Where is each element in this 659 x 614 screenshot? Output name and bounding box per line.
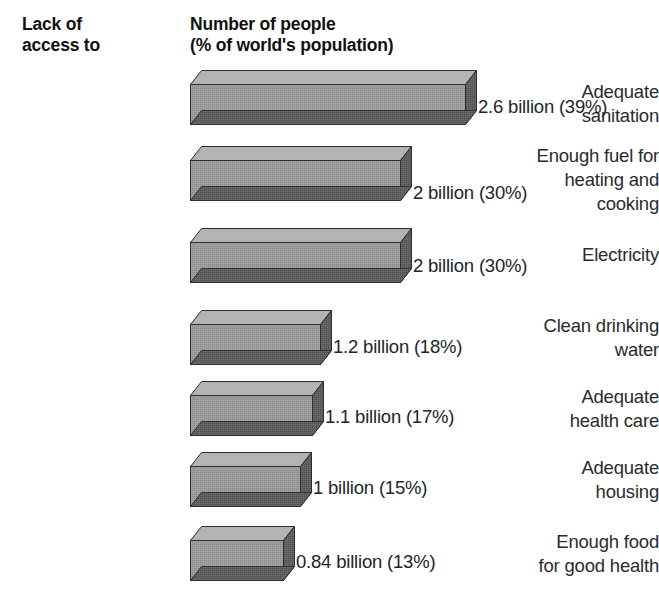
- bar-3d: [190, 228, 413, 284]
- value-axis-header: Number of people (% of world's populatio…: [190, 14, 393, 56]
- bar-value-label: 1.2 billion (18%): [333, 336, 462, 358]
- bar-chart: Lack of access to Number of people (% of…: [0, 0, 659, 614]
- bar-category-label: Clean drinking water: [484, 314, 659, 362]
- category-axis-header: Lack of access to: [22, 14, 100, 56]
- bar-3d: [190, 381, 325, 437]
- bar-category-label: Enough food for good health: [484, 530, 659, 578]
- bar-category-label: Adequate health care: [484, 385, 659, 433]
- bar-category-label: Enough fuel for heating and cooking: [484, 144, 659, 216]
- bar-category-label: Adequate housing: [484, 456, 659, 504]
- bar-value-label: 2 billion (30%): [413, 255, 527, 277]
- bar-3d: [190, 452, 313, 508]
- bar-value-label: 1.1 billion (17%): [325, 406, 454, 428]
- bar-3d: [190, 310, 333, 366]
- bar-value-label: 1 billion (15%): [313, 477, 427, 499]
- bar-value-label: 2 billion (30%): [413, 182, 527, 204]
- bar-3d: [190, 526, 296, 582]
- bar-value-label: 0.84 billion (13%): [296, 551, 435, 573]
- bar-3d: [190, 146, 413, 202]
- bar-3d: [190, 70, 478, 126]
- bar-value-label: 2.6 billion (39%): [478, 96, 607, 118]
